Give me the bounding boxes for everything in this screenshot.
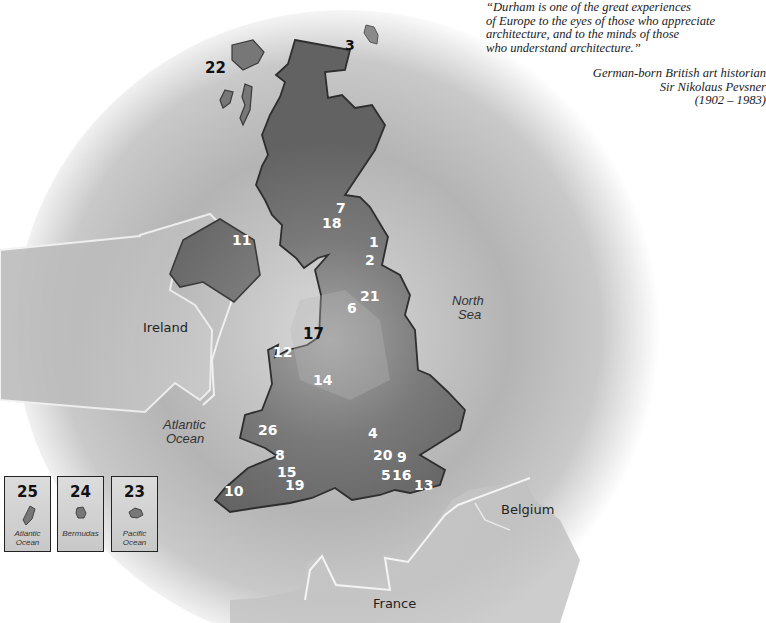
marker-9[interactable]: 9	[397, 449, 407, 465]
marker-3[interactable]: 3	[345, 37, 355, 53]
label-france: France	[373, 596, 416, 611]
label-north-sea-2: Sea	[458, 307, 481, 322]
attribution-line: (1902 – 1983)	[536, 94, 766, 108]
inset-23[interactable]: 23 PacificOcean	[111, 476, 158, 552]
label-ireland: Ireland	[143, 320, 188, 335]
marker-26[interactable]: 26	[258, 422, 277, 438]
marker-20[interactable]: 20	[373, 447, 393, 463]
quote-text: “Durham is one of the great experiences …	[486, 1, 746, 55]
marker-6[interactable]: 6	[347, 300, 357, 316]
marker-21[interactable]: 21	[360, 288, 379, 304]
attribution-line: Sir Nikolaus Pevsner	[536, 81, 766, 95]
marker-10[interactable]: 10	[224, 483, 244, 499]
quote-line: architecture, and to the minds of those	[486, 28, 746, 42]
marker-12[interactable]: 12	[273, 344, 292, 360]
marker-18[interactable]: 18	[322, 215, 341, 231]
inset-label: PacificOcean	[112, 529, 157, 547]
inset-24[interactable]: 24 Bermudas	[57, 476, 104, 552]
marker-7[interactable]: 7	[336, 200, 346, 216]
marker-1[interactable]: 1	[369, 234, 379, 250]
quote-line: who understand architecture.”	[486, 42, 746, 56]
marker-4[interactable]: 4	[368, 425, 378, 441]
marker-17[interactable]: 17	[303, 325, 324, 343]
inset-label: AtlanticOcean	[5, 529, 50, 547]
marker-5[interactable]: 5	[381, 467, 391, 483]
marker-22[interactable]: 22	[205, 59, 226, 77]
attribution-line: German-born British art historian	[536, 67, 766, 81]
marker-2[interactable]: 2	[365, 252, 375, 268]
label-belgium: Belgium	[501, 502, 554, 517]
marker-13[interactable]: 13	[414, 477, 433, 493]
marker-11[interactable]: 11	[232, 232, 251, 248]
island-24-icon	[58, 503, 105, 529]
marker-16[interactable]: 16	[392, 467, 411, 483]
label-north-sea-1: North	[452, 293, 484, 308]
inset-25[interactable]: 25 AtlanticOcean	[4, 476, 51, 552]
marker-19[interactable]: 19	[285, 477, 304, 493]
quote-line: “Durham is one of the great experiences	[486, 1, 746, 15]
label-atlantic-2: Ocean	[166, 431, 204, 446]
inset-number: 23	[112, 483, 157, 501]
label-atlantic-1: Atlantic	[162, 417, 206, 432]
island-23-icon	[112, 503, 159, 529]
marker-8[interactable]: 8	[275, 447, 285, 463]
quote-attribution: German-born British art historian Sir Ni…	[536, 67, 766, 108]
inset-number: 25	[5, 483, 50, 501]
quote-line: of Europe to the eyes of those who appre…	[486, 15, 746, 29]
marker-14[interactable]: 14	[313, 372, 333, 388]
inset-label: Bermudas	[58, 529, 103, 538]
island-25-icon	[5, 503, 52, 529]
inset-number: 24	[58, 483, 103, 501]
